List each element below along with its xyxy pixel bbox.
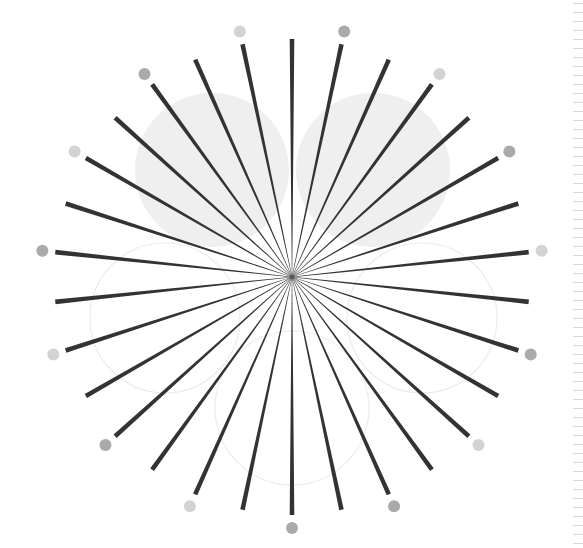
- dot: [338, 25, 350, 37]
- ruler-tick: [573, 246, 583, 247]
- ruler-tick: [573, 498, 583, 499]
- ruler-tick: [573, 354, 583, 355]
- ruler-tick: [573, 399, 583, 400]
- dot: [434, 68, 446, 80]
- ruler-tick: [573, 381, 583, 382]
- ruler-tick: [573, 282, 583, 283]
- ray: [294, 250, 529, 277]
- ray: [293, 279, 391, 496]
- starburst-canvas: [0, 0, 583, 548]
- dot: [473, 439, 485, 451]
- ray: [294, 277, 529, 304]
- ruler-tick: [573, 462, 583, 463]
- dot: [47, 349, 59, 361]
- ruler-tick: [573, 300, 583, 301]
- ruler-tick: [573, 345, 583, 346]
- ruler-tick: [573, 174, 583, 175]
- ruler-tick: [573, 30, 583, 31]
- ruler-tick: [573, 111, 583, 112]
- ruler-tick: [573, 525, 583, 526]
- dot: [184, 500, 196, 512]
- ruler-tick: [573, 129, 583, 130]
- ruler-tick: [573, 516, 583, 517]
- ray: [55, 250, 290, 277]
- ruler-tick: [573, 543, 583, 544]
- ruler-tick: [573, 507, 583, 508]
- ruler-tick: [573, 444, 583, 445]
- ruler-tick: [573, 480, 583, 481]
- ruler-tick: [573, 210, 583, 211]
- ruler-tick: [573, 165, 583, 166]
- ray: [150, 279, 291, 471]
- ray: [290, 39, 295, 275]
- ruler-tick: [573, 192, 583, 193]
- dot: [138, 68, 150, 80]
- ruler-tick: [573, 66, 583, 67]
- ruler-tick: [573, 39, 583, 40]
- dot: [69, 146, 81, 158]
- ruler-tick: [573, 336, 583, 337]
- filled-circle-right: [296, 93, 450, 247]
- ruler-tick: [573, 147, 583, 148]
- ruler-tick: [573, 3, 583, 4]
- dot: [286, 522, 298, 534]
- ruler-tick: [573, 156, 583, 157]
- ruler-tick: [573, 255, 583, 256]
- dot: [525, 349, 537, 361]
- ruler-tick: [573, 489, 583, 490]
- ruler-tick: [573, 273, 583, 274]
- dot: [388, 500, 400, 512]
- ruler-tick: [573, 228, 583, 229]
- ruler-tick: [573, 138, 583, 139]
- center-dot: [290, 275, 294, 279]
- ruler-tick: [573, 264, 583, 265]
- ruler-tick: [573, 390, 583, 391]
- ruler-tick: [573, 372, 583, 373]
- ray: [193, 279, 291, 496]
- ray: [293, 279, 434, 471]
- ruler-tick: [573, 84, 583, 85]
- ruler-tick: [573, 93, 583, 94]
- ruler-tick: [573, 534, 583, 535]
- ray: [290, 279, 295, 515]
- dot: [99, 439, 111, 451]
- ruler-tick: [573, 120, 583, 121]
- dot: [36, 245, 48, 257]
- ruler-tick: [573, 75, 583, 76]
- filled-circle-left: [135, 93, 289, 247]
- ruler-tick: [573, 48, 583, 49]
- dot: [536, 245, 548, 257]
- ruler-tick: [573, 363, 583, 364]
- ruler-tick: [573, 21, 583, 22]
- ruler-tick: [573, 435, 583, 436]
- edge-ruler: [571, 0, 583, 548]
- ruler-tick: [573, 201, 583, 202]
- ruler-tick: [573, 237, 583, 238]
- ruler-tick: [573, 219, 583, 220]
- ruler-tick: [573, 453, 583, 454]
- dot: [234, 25, 246, 37]
- ruler-tick: [573, 318, 583, 319]
- ruler-tick: [573, 327, 583, 328]
- dot: [503, 146, 515, 158]
- ruler-tick: [573, 102, 583, 103]
- ray: [55, 277, 290, 304]
- ruler-tick: [573, 417, 583, 418]
- ruler-tick: [573, 57, 583, 58]
- ruler-tick: [573, 426, 583, 427]
- ruler-tick: [573, 183, 583, 184]
- ruler-tick: [573, 291, 583, 292]
- ruler-tick: [573, 309, 583, 310]
- ruler-tick: [573, 12, 583, 13]
- ruler-tick: [573, 471, 583, 472]
- ruler-tick: [573, 408, 583, 409]
